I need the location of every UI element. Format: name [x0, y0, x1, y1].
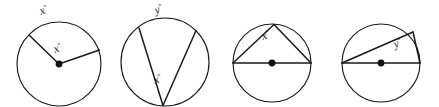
circle-1-group: x° x° [17, 2, 101, 106]
circle-1-arc-label: x° [36, 2, 49, 17]
circle-1-radius-right [59, 50, 100, 64]
circle-1-angle-label: x° [50, 40, 63, 55]
circle-2-group: y° x° [121, 1, 209, 106]
circle-3-group: x° [233, 24, 311, 102]
circle-4-center-dot [378, 60, 385, 67]
circle-2-chord-left [139, 28, 163, 106]
circle-2-arc-label: y° [151, 1, 164, 17]
circles-diagram-svg: x° x° y° x° x° [0, 0, 439, 107]
circle-4-group: y° [342, 24, 420, 102]
circle-4-chord-short [413, 32, 420, 63]
geometry-figure: x° x° y° x° x° [0, 0, 439, 107]
circle-2-angle-label: x° [150, 71, 163, 86]
circle-3-center-dot [269, 60, 276, 67]
circle-1-center-dot [56, 61, 63, 68]
circle-2-chord-right [163, 31, 196, 106]
